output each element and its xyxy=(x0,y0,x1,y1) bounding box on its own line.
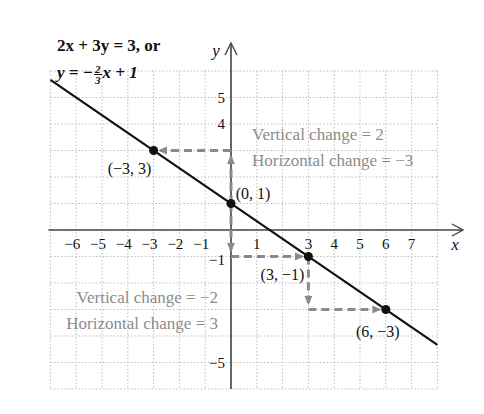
x-tick-label: −5 xyxy=(90,236,106,252)
x-tick-label: 1 xyxy=(253,236,261,252)
equation-line-2: y = −23x + 1 xyxy=(57,63,138,85)
x-tick-label: 5 xyxy=(356,236,364,252)
upper-horizontal-change-label: Horizontal change = −3 xyxy=(252,151,413,170)
x-tick-label: −4 xyxy=(116,236,132,252)
x-tick-label: 6 xyxy=(382,236,390,252)
point-label: (−3, 3) xyxy=(108,160,152,178)
fraction: 23 xyxy=(94,64,102,85)
fraction-denominator: 3 xyxy=(94,75,102,85)
y-tick-label: −1 xyxy=(209,252,225,268)
x-tick-label: 4 xyxy=(330,236,338,252)
equation-line-1: 2x + 3y = 3, or xyxy=(57,36,160,56)
lower-vertical-change-label: Vertical change = −2 xyxy=(77,288,218,307)
lower-horizontal-change-label: Horizontal change = 3 xyxy=(66,314,218,333)
fraction-numerator: 2 xyxy=(94,64,102,75)
y-tick-label: −5 xyxy=(209,355,225,371)
y-tick-label: 5 xyxy=(218,90,226,106)
x-tick-label: −2 xyxy=(167,236,183,252)
x-tick-label: −1 xyxy=(193,236,209,252)
point-marker xyxy=(381,305,390,314)
axes xyxy=(48,43,463,389)
tick-labels: −6−5−4−3−2−113456754−1−5xyVertical chang… xyxy=(64,41,459,371)
x-tick-label: 3 xyxy=(305,236,313,252)
x-axis-label: x xyxy=(450,235,459,254)
x-tick-label: −3 xyxy=(142,236,158,252)
equation-suffix: x + 1 xyxy=(103,63,138,82)
point-marker xyxy=(149,146,158,155)
point-label: (6, −3) xyxy=(356,323,400,341)
point-label: (0, 1) xyxy=(236,185,271,203)
equation-prefix: y = − xyxy=(57,63,93,82)
point-marker xyxy=(227,199,236,208)
y-axis-label: y xyxy=(210,41,220,60)
y-tick-label: 4 xyxy=(218,116,226,132)
x-tick-label: 7 xyxy=(408,236,416,252)
point-marker xyxy=(304,252,313,261)
x-tick-label: −6 xyxy=(64,236,80,252)
point-label: (3, −1) xyxy=(261,266,305,284)
upper-vertical-change-label: Vertical change = 2 xyxy=(252,125,384,144)
